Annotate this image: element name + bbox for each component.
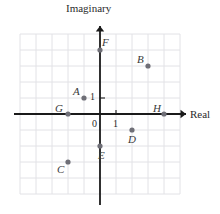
data-point-d <box>129 127 134 132</box>
point-label-f: F <box>102 37 109 48</box>
origin-tick-label: 0 <box>92 119 97 129</box>
plot-canvas <box>0 0 220 214</box>
data-point-h <box>161 111 166 116</box>
data-point-a <box>81 95 86 100</box>
point-label-b: B <box>137 54 144 65</box>
point-label-g: G <box>55 103 63 114</box>
data-point-c <box>65 159 70 164</box>
complex-plane-plot: Imaginary Real 0 1 1 ABCDEFGH <box>0 0 220 214</box>
axis-ticks <box>100 98 116 114</box>
imaginary-unit-tick-label: 1 <box>90 92 95 102</box>
point-label-d: D <box>128 134 136 145</box>
imaginary-axis-label: Imaginary <box>66 3 111 14</box>
data-point-b <box>145 63 150 68</box>
point-label-c: C <box>57 164 64 175</box>
data-point-f <box>97 47 102 52</box>
imaginary-axis-arrowhead <box>96 26 104 32</box>
real-axis-arrowhead <box>181 110 187 118</box>
point-label-h: H <box>153 103 161 114</box>
point-label-a: A <box>73 86 80 97</box>
data-point-g <box>65 111 70 116</box>
real-unit-tick-label: 1 <box>113 119 118 129</box>
point-label-e: E <box>98 150 105 161</box>
real-axis-label: Real <box>190 109 210 120</box>
data-point-e <box>97 143 102 148</box>
